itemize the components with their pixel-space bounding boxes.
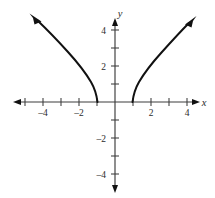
x-tick-label-2: 2	[149, 108, 154, 118]
x-axis-arrow-right	[192, 99, 200, 105]
x-tick-label-4: 4	[185, 108, 190, 118]
coordinate-plot: –4 –2 2 4 4 2 –2 –4 x y	[0, 0, 215, 198]
y-tick-label--4: –4	[96, 170, 107, 180]
y-tick-label--2: –2	[96, 134, 107, 144]
graph-figure: –4 –2 2 4 4 2 –2 –4 x y	[0, 0, 215, 198]
x-tick-label--2: –2	[73, 108, 84, 118]
x-axis	[13, 99, 200, 105]
y-axis	[112, 18, 118, 193]
left-branch-path	[38, 21, 98, 103]
x-axis-arrow-left	[13, 99, 21, 105]
curve-right-branch	[133, 16, 197, 102]
y-axis-arrow-up	[112, 18, 118, 26]
x-axis-label: x	[201, 97, 207, 108]
x-tick-label--4: –4	[37, 108, 48, 118]
y-tick-label-4: 4	[101, 26, 106, 36]
y-axis-label: y	[117, 8, 123, 19]
curve-left-branch	[30, 14, 98, 103]
y-tick-label-2: 2	[101, 62, 106, 72]
right-branch-path	[133, 23, 190, 102]
x-axis-tick-labels: –4 –2 2 4	[37, 108, 189, 118]
y-axis-arrow-down	[112, 185, 118, 193]
